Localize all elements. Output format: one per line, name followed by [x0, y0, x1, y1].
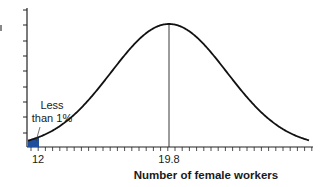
tail-annotation: Less than 1% — [28, 99, 76, 125]
x-tick-label-mean: 19.8 — [158, 153, 179, 165]
annotation-line-2: than 1% — [28, 112, 76, 125]
x-axis-ticks — [31, 147, 312, 151]
annotation-line-1: Less — [28, 99, 76, 112]
x-axis-title: Number of female workers — [134, 169, 278, 181]
clipped-axis-label-fragment — [0, 25, 2, 31]
x-tick-label-12: 12 — [32, 153, 44, 165]
